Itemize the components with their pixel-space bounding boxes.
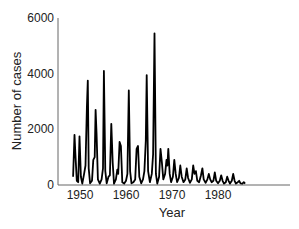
x-tick-label: 1960 [113, 188, 140, 202]
y-tick-label: 2000 [27, 122, 54, 136]
x-tick-label: 1980 [205, 188, 232, 202]
data-line [73, 33, 245, 183]
y-tick-label: 0 [47, 178, 54, 192]
y-tick-label: 6000 [27, 11, 54, 25]
x-axis-label: Year [159, 205, 186, 220]
y-axis-label: Number of cases [9, 51, 24, 150]
x-tick-label: 1950 [67, 188, 94, 202]
x-tick-label: 1970 [159, 188, 186, 202]
chart: 02000400060001950196019701980 Year Numbe… [0, 0, 299, 229]
y-tick-label: 4000 [27, 67, 54, 81]
